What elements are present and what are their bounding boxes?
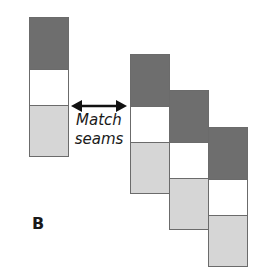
seams-label: seams	[69, 130, 129, 148]
white-segment	[208, 179, 248, 216]
panel-label: B	[32, 214, 44, 233]
strip-1	[130, 54, 170, 194]
dark-segment	[208, 127, 248, 180]
light-segment	[169, 178, 209, 230]
white-segment	[130, 106, 170, 143]
dark-segment	[29, 17, 69, 70]
white-segment	[169, 142, 209, 179]
dark-segment	[130, 54, 170, 107]
light-segment	[208, 215, 248, 267]
strip-3	[208, 127, 248, 267]
light-segment	[29, 105, 69, 157]
match-label: Match	[69, 111, 129, 129]
light-segment	[130, 142, 170, 194]
reference-strip	[29, 17, 69, 157]
white-segment	[29, 69, 69, 106]
strip-2	[169, 90, 209, 230]
dark-segment	[169, 90, 209, 143]
